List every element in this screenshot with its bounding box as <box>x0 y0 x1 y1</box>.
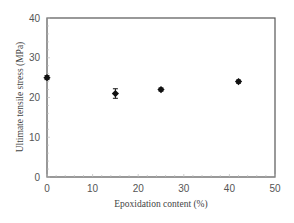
x-tick-label: 20 <box>133 183 145 194</box>
minor-ticks <box>47 18 275 177</box>
y-tick-labels: 010203040 <box>29 13 41 183</box>
x-tick-label: 50 <box>269 183 281 194</box>
x-tick-label: 0 <box>44 183 50 194</box>
data-point <box>157 86 164 93</box>
diamond-marker <box>235 78 242 85</box>
data-point <box>112 89 119 99</box>
scatter-chart: 010203040 01020304050 Epoxidation conten… <box>0 0 294 223</box>
data-points <box>43 74 242 98</box>
data-point <box>235 78 242 85</box>
plot-border <box>47 18 275 177</box>
y-axis-label: Ultimate tensile stress (MPa) <box>15 42 26 153</box>
y-tick-label: 40 <box>29 13 41 24</box>
diamond-marker <box>157 86 164 93</box>
x-tick-label: 10 <box>87 183 99 194</box>
y-tick-label: 30 <box>29 52 41 63</box>
x-axis-label: Epoxidation content (%) <box>114 199 207 210</box>
diamond-marker <box>43 74 50 81</box>
diamond-marker <box>112 90 119 97</box>
data-point <box>43 74 50 81</box>
y-tick-label: 10 <box>29 132 41 143</box>
y-tick-label: 0 <box>34 172 40 183</box>
x-tick-label: 40 <box>224 183 236 194</box>
x-tick-labels: 01020304050 <box>44 183 281 194</box>
y-tick-label: 20 <box>29 92 41 103</box>
plot-frame <box>47 18 275 177</box>
x-tick-label: 30 <box>178 183 190 194</box>
